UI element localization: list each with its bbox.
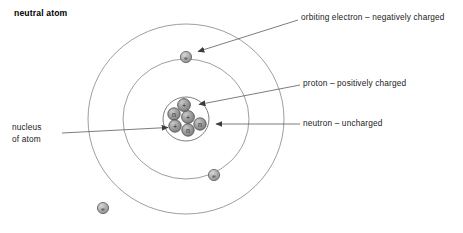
atom-diagram-svg: n + n n + +: [0, 0, 463, 233]
electron-annotation-label: orbiting electron – negatively charged: [301, 12, 445, 23]
neutron-right-particle: n: [194, 118, 206, 130]
svg-text:n: n: [172, 111, 176, 118]
svg-text:e: e: [101, 205, 105, 212]
nucleus-annotation-label: nucleus of atom: [12, 122, 72, 145]
svg-text:n: n: [186, 127, 190, 134]
electron-lower-right-particle: e: [208, 169, 219, 180]
electron-top-particle: e: [180, 51, 191, 62]
electron-lower-left-particle: e: [97, 202, 108, 213]
page-title: neutral atom: [14, 8, 67, 19]
svg-text:+: +: [186, 114, 190, 121]
proton-leader-line: [199, 85, 300, 105]
proton-center-particle: +: [182, 111, 195, 124]
svg-text:e: e: [212, 172, 216, 179]
nucleus-label-line-1: nucleus: [12, 122, 42, 132]
atom-diagram-canvas: n + n n + +: [0, 0, 463, 233]
svg-text:+: +: [173, 123, 177, 130]
proton-top-particle: +: [178, 99, 191, 112]
leader-lines: [62, 20, 300, 133]
neutron-left-particle: n: [168, 108, 180, 120]
svg-text:e: e: [184, 54, 188, 61]
proton-lower-left-particle: +: [169, 120, 181, 132]
nucleus-leader-line: [62, 128, 168, 134]
neutron-bottom-particle: n: [182, 124, 194, 136]
proton-annotation-label: proton – positively charged: [303, 78, 406, 89]
electron-leader-line: [198, 20, 298, 52]
svg-text:n: n: [198, 121, 202, 128]
nucleus-label-line-2: of atom: [12, 134, 41, 144]
electron-particles: e e e: [97, 51, 219, 213]
svg-text:+: +: [182, 102, 186, 109]
neutron-annotation-label: neutron – uncharged: [303, 118, 382, 129]
